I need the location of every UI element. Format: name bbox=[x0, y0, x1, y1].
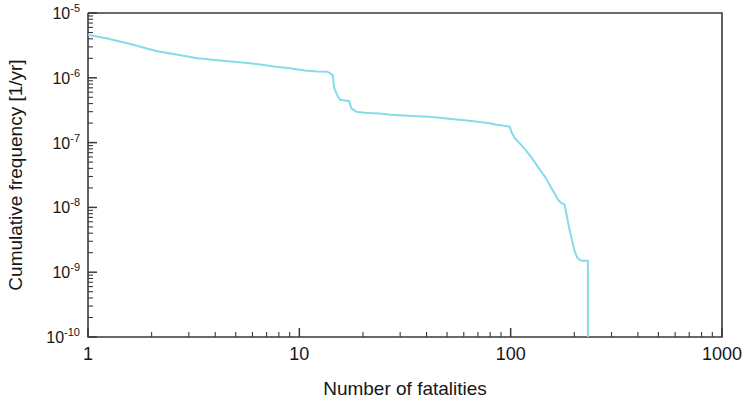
x-tick-label: 1 bbox=[83, 344, 93, 364]
y-tick-label: 10-7 bbox=[52, 132, 80, 152]
y-axis-title: Cumulative frequency [1/yr] bbox=[5, 59, 26, 290]
x-tick-label: 100 bbox=[496, 344, 526, 364]
x-axis-title: Number of fatalities bbox=[323, 378, 487, 399]
y-tick-label: 10-9 bbox=[52, 261, 80, 281]
plot-background bbox=[88, 13, 722, 337]
cumulative-frequency-chart: 1101001000 10-510-610-710-810-910-10 Num… bbox=[0, 0, 747, 409]
plot-area bbox=[88, 13, 722, 337]
y-tick-label: 10-5 bbox=[52, 2, 80, 22]
x-axis-tick-labels: 1101001000 bbox=[83, 344, 742, 364]
y-tick-label: 10-6 bbox=[52, 67, 80, 87]
figure-container: 1101001000 10-510-610-710-810-910-10 Num… bbox=[0, 0, 747, 409]
x-tick-label: 1000 bbox=[702, 344, 742, 364]
y-tick-label: 10-8 bbox=[52, 196, 80, 216]
y-axis-tick-labels: 10-510-610-710-810-910-10 bbox=[46, 2, 80, 346]
x-tick-label: 10 bbox=[289, 344, 309, 364]
y-tick-label: 10-10 bbox=[46, 326, 80, 346]
